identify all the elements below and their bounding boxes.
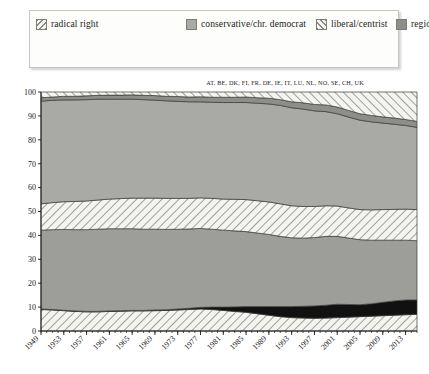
chart-areas — [41, 92, 417, 331]
legend-item-liberal: liberal/centrist — [316, 16, 396, 33]
axis-tick-label: 20 — [28, 279, 36, 288]
axis-tick-label: 40 — [28, 231, 36, 240]
area-social-democrat — [41, 228, 417, 311]
axis-tick-label: 1965 — [114, 334, 132, 352]
legend-item-conservative: conservative/chr. democrat — [186, 16, 316, 33]
legend-swatch-liberal — [316, 19, 327, 30]
axis-tick-label: 70 — [28, 160, 36, 169]
axis-tick-label: 60 — [28, 183, 36, 192]
legend-label-regionalist: regionalist/nationalist — [411, 20, 429, 30]
legend-items: radical right conservative/chr. democrat… — [36, 16, 396, 33]
axis-tick-label: 1981 — [205, 334, 223, 352]
axis-tick-label: 2013 — [387, 334, 405, 352]
legend-item-radical-right: radical right — [36, 16, 186, 33]
axis-tick-label: 30 — [28, 255, 36, 264]
axis-tick-label: 2001 — [319, 334, 337, 352]
axis-tick-label: 50 — [28, 207, 36, 216]
legend-swatch-radical-right — [36, 19, 47, 30]
axis-tick-label: 2009 — [365, 334, 383, 352]
axis-tick-label: 1969 — [137, 334, 155, 352]
chart-legend: radical right conservative/chr. democrat… — [29, 10, 399, 68]
axis-tick-label: 1961 — [91, 334, 109, 352]
stacked-area-chart: 0102030405060708090100194919531957196119… — [0, 72, 429, 374]
axis-tick-label: 1993 — [273, 334, 291, 352]
axis-tick-label: 10 — [28, 303, 36, 312]
legend-label-radical-right: radical right — [51, 20, 98, 30]
legend-item-regionalist: regionalist/nationalist — [396, 16, 429, 33]
axis-tick-label: 1957 — [68, 334, 86, 352]
axis-tick-label: 1953 — [46, 334, 64, 352]
axis-tick-label: 2005 — [342, 334, 360, 352]
axis-tick-label: 1949 — [23, 334, 41, 352]
legend-swatch-regionalist — [396, 19, 407, 30]
axis-tick-label: 1977 — [182, 334, 200, 352]
axis-tick-label: 80 — [28, 136, 36, 145]
axis-tick-label: 90 — [28, 112, 36, 121]
axis-tick-label: 100 — [24, 88, 36, 97]
axis-tick-label: 1989 — [251, 334, 269, 352]
chart-canvas: 0102030405060708090100194919531957196119… — [0, 72, 429, 374]
axis-tick-label: 1997 — [296, 334, 314, 352]
axis-tick-label: 1985 — [228, 334, 246, 352]
legend-label-conservative: conservative/chr. democrat — [201, 20, 306, 30]
legend-swatch-conservative — [186, 19, 197, 30]
chart-title: AT, BE, DK, FI, FR, DE, IE, IT, LU, NL, … — [206, 79, 364, 86]
axis-tick-label: 1973 — [159, 334, 177, 352]
legend-label-liberal: liberal/centrist — [331, 20, 387, 30]
